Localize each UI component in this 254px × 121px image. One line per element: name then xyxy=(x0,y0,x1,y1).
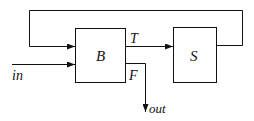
diagram-lines xyxy=(0,0,254,121)
block-diagram: B S T F in out xyxy=(0,0,254,121)
block-b-label: B xyxy=(96,49,105,64)
f-label: F xyxy=(129,69,138,83)
block-s-label: S xyxy=(190,49,198,64)
in-label: in xyxy=(12,69,23,83)
t-label: T xyxy=(130,32,138,46)
out-label: out xyxy=(149,102,166,115)
